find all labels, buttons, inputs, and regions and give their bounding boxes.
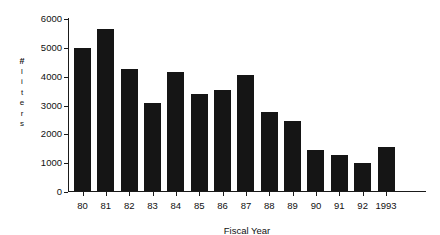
y-tick-group: 3000 xyxy=(68,106,69,107)
y-tick-label: 4000 xyxy=(41,71,62,82)
x-tick-label: 87 xyxy=(241,200,252,211)
x-tick-mark xyxy=(386,192,387,196)
bar xyxy=(191,94,208,191)
y-axis-label: #liters xyxy=(14,56,30,130)
x-tick-label: 92 xyxy=(357,200,368,211)
bar xyxy=(237,75,254,191)
bar xyxy=(378,147,395,191)
y-tick-mark xyxy=(64,19,68,20)
y-tick-label: 2000 xyxy=(41,128,62,139)
bar xyxy=(74,48,91,191)
x-tick-mark xyxy=(363,192,364,196)
x-tick-label: 91 xyxy=(334,200,345,211)
y-tick-label: 5000 xyxy=(41,42,62,53)
x-tick-label: 81 xyxy=(101,200,112,211)
y-axis-label-char: r xyxy=(14,109,30,120)
x-tick-label: 85 xyxy=(194,200,205,211)
y-tick-group: 6000 xyxy=(68,19,69,20)
bar xyxy=(284,121,301,191)
y-tick-mark xyxy=(64,192,68,193)
y-tick-label: 6000 xyxy=(41,13,62,24)
x-tick-mark xyxy=(269,192,270,196)
x-tick-mark xyxy=(293,192,294,196)
y-tick-group: 0 xyxy=(68,192,69,193)
x-tick-label: 89 xyxy=(287,200,298,211)
y-axis-label-char: l xyxy=(14,67,30,78)
y-tick-label: 1000 xyxy=(41,157,62,168)
y-tick-mark xyxy=(64,163,68,164)
x-tick-label: 82 xyxy=(124,200,135,211)
bar xyxy=(121,69,138,191)
bar xyxy=(331,155,348,191)
x-tick-mark xyxy=(129,192,130,196)
y-axis-label-char: i xyxy=(14,77,30,88)
y-tick-mark xyxy=(64,134,68,135)
x-tick-mark xyxy=(153,192,154,196)
y-tick-mark xyxy=(64,48,68,49)
bar xyxy=(97,29,114,191)
x-tick-mark xyxy=(223,192,224,196)
x-tick-label: 88 xyxy=(264,200,275,211)
y-tick-group: 4000 xyxy=(68,77,69,78)
x-tick-mark xyxy=(339,192,340,196)
bar xyxy=(307,150,324,191)
x-tick-label: 80 xyxy=(77,200,88,211)
bar xyxy=(167,72,184,191)
plot-area: 0100020003000400050006000 80818283848586… xyxy=(68,18,426,192)
y-tick-group: 2000 xyxy=(68,134,69,135)
y-axis-label-char: t xyxy=(14,88,30,99)
y-tick-label: 0 xyxy=(57,186,62,197)
bar xyxy=(354,163,371,191)
bar xyxy=(261,112,278,191)
bar xyxy=(144,103,161,191)
x-tick-label: 84 xyxy=(171,200,182,211)
x-tick-mark xyxy=(316,192,317,196)
y-tick-mark xyxy=(64,106,68,107)
y-tick-label: 3000 xyxy=(41,100,62,111)
x-tick-label: 83 xyxy=(147,200,158,211)
y-axis-label-char: s xyxy=(14,119,30,130)
x-axis-line xyxy=(68,191,426,192)
x-tick-mark xyxy=(83,192,84,196)
x-tick-label: 86 xyxy=(217,200,228,211)
x-tick-mark xyxy=(106,192,107,196)
bar xyxy=(214,90,231,191)
y-tick-mark xyxy=(64,77,68,78)
x-tick-label: 90 xyxy=(311,200,322,211)
x-tick-mark xyxy=(199,192,200,196)
y-tick-group: 5000 xyxy=(68,48,69,49)
y-tick-group: 1000 xyxy=(68,163,69,164)
bar-chart-figure: #liters 0100020003000400050006000 808182… xyxy=(0,0,440,235)
x-tick-mark xyxy=(246,192,247,196)
y-axis-label-char: e xyxy=(14,98,30,109)
x-tick-mark xyxy=(176,192,177,196)
x-axis-title: Fiscal Year xyxy=(68,225,426,235)
y-axis-label-char: # xyxy=(14,56,30,67)
x-tick-label: 1993 xyxy=(375,200,396,211)
